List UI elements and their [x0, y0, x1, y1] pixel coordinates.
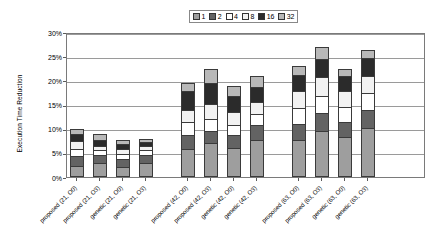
- bar-segment: [315, 113, 329, 130]
- bar-segment: [338, 107, 352, 122]
- y-axis-title: Execution Time Reduction: [16, 49, 23, 179]
- bar-stack[interactable]: [250, 76, 264, 177]
- bar-stack[interactable]: [93, 134, 107, 177]
- bar-segment: [181, 135, 195, 149]
- x-axis-tick-mark: [99, 178, 100, 181]
- legend-label: 16: [267, 13, 275, 20]
- bar-stack[interactable]: [292, 66, 306, 177]
- bar-segment: [361, 58, 375, 76]
- bar-segment: [227, 135, 241, 148]
- bar-stack[interactable]: [227, 86, 241, 177]
- bar-segment: [227, 96, 241, 112]
- bar-stack[interactable]: [204, 69, 218, 177]
- bar-segment: [116, 159, 130, 167]
- x-axis-tick-mark: [367, 178, 368, 181]
- bar-segment: [250, 87, 264, 102]
- gridline: [67, 34, 424, 35]
- bar-segment: [338, 69, 352, 76]
- bar-segment: [227, 125, 241, 135]
- bar-segment: [292, 140, 306, 177]
- x-axis-tick-mark: [145, 178, 146, 181]
- legend-entry[interactable]: 2: [209, 13, 221, 20]
- chart-container: 12481632 Execution Time Reduction 0%5%10…: [0, 0, 442, 248]
- bar-segment: [361, 128, 375, 177]
- legend-label: 2: [218, 13, 222, 20]
- bar-segment: [204, 143, 218, 177]
- bar-segment: [315, 59, 329, 77]
- legend-entry[interactable]: 16: [258, 13, 274, 20]
- bar-segment: [338, 122, 352, 137]
- legend-label: 4: [234, 13, 238, 20]
- bar-segment: [70, 156, 84, 166]
- bar-segment: [292, 124, 306, 140]
- bar-segment: [227, 148, 241, 177]
- bar-segment: [361, 76, 375, 93]
- legend-swatch-icon: [258, 13, 265, 20]
- bar-segment: [93, 163, 107, 178]
- bar-segment: [70, 149, 84, 157]
- bar-segment: [116, 167, 130, 177]
- bar-stack[interactable]: [70, 129, 84, 177]
- legend-entry[interactable]: 8: [242, 13, 254, 20]
- bar-segment: [315, 77, 329, 96]
- legend-swatch-icon: [209, 13, 216, 20]
- x-axis-tick-mark: [344, 178, 345, 181]
- x-axis-tick-mark: [210, 178, 211, 181]
- bar-segment: [292, 108, 306, 124]
- bar-segment: [250, 114, 264, 125]
- bar-segment: [93, 155, 107, 162]
- bar-segment: [361, 110, 375, 127]
- bar-stack[interactable]: [315, 47, 329, 177]
- bar-segment: [204, 119, 218, 131]
- bar-segment: [227, 112, 241, 125]
- x-axis-tick-mark: [298, 178, 299, 181]
- bar-segment: [204, 83, 218, 104]
- y-axis-tick-label: 30%: [22, 30, 62, 37]
- bar-segment: [70, 141, 84, 148]
- y-axis-tick-label: 5%: [22, 150, 62, 157]
- bar-segment: [250, 76, 264, 87]
- bar-stack[interactable]: [139, 139, 153, 177]
- bar-segment: [181, 122, 195, 135]
- bar-segment: [338, 91, 352, 107]
- x-axis-tick-mark: [187, 178, 188, 181]
- legend-swatch-icon: [278, 13, 285, 20]
- x-axis-tick-mark: [122, 178, 123, 181]
- bar-segment: [292, 91, 306, 108]
- bar-segment: [361, 50, 375, 58]
- legend-entry[interactable]: 32: [278, 13, 294, 20]
- bar-segment: [292, 75, 306, 91]
- bar-segment: [315, 96, 329, 113]
- legend-swatch-icon: [242, 13, 249, 20]
- bar-stack[interactable]: [116, 140, 130, 177]
- legend-swatch-icon: [193, 13, 200, 20]
- bar-segment: [181, 91, 195, 109]
- legend-entry[interactable]: 4: [226, 13, 238, 20]
- bar-segment: [139, 163, 153, 177]
- y-axis-tick-label: 10%: [22, 126, 62, 133]
- bar-segment: [315, 47, 329, 59]
- bar-segment: [250, 140, 264, 177]
- y-axis-tick-label: 25%: [22, 54, 62, 61]
- bar-stack[interactable]: [338, 69, 352, 177]
- bar-stack[interactable]: [181, 83, 195, 177]
- legend-label: 8: [250, 13, 254, 20]
- bar-segment: [139, 155, 153, 163]
- x-axis-tick-mark: [256, 178, 257, 181]
- x-axis-tick-mark: [233, 178, 234, 181]
- bar-segment: [70, 134, 84, 142]
- y-axis-tick-label: 0%: [22, 175, 62, 182]
- legend-entry[interactable]: 1: [193, 13, 205, 20]
- bar-segment: [338, 76, 352, 91]
- bar-segment: [181, 110, 195, 122]
- y-axis-tick-label: 15%: [22, 102, 62, 109]
- bar-segment: [70, 166, 84, 177]
- bar-stack[interactable]: [361, 50, 375, 177]
- chart-legend: 12481632: [189, 10, 298, 23]
- plot-area: [66, 33, 425, 178]
- bar-segment: [227, 86, 241, 96]
- bar-segment: [292, 66, 306, 74]
- bar-segment: [250, 125, 264, 140]
- x-axis-tick-mark: [321, 178, 322, 181]
- legend-label: 1: [202, 13, 206, 20]
